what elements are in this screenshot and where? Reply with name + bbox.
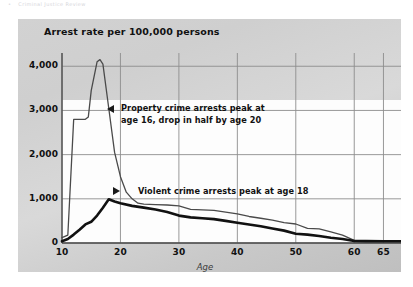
annotation-property-peak: Property crime arrests peak at age 16, d…	[121, 103, 265, 126]
series-line	[62, 199, 401, 241]
annotation-property-line1: Property crime arrests peak at	[121, 103, 265, 115]
axis-lines	[62, 53, 401, 243]
page-header-fragment: •Criminal Justice Review	[8, 1, 86, 7]
chart-panel: Arrest rate per 100,000 persons 01,0002,…	[18, 19, 401, 272]
annotation-violent-line1: Violent crime arrests peak at age 18	[138, 186, 308, 198]
header-bullet-icon: •	[8, 1, 11, 7]
header-fragment-text: Criminal Justice Review	[18, 1, 85, 7]
series-line	[62, 60, 401, 241]
chart-plot-area	[18, 19, 401, 272]
annotation-property-line2: age 16, drop in half by age 20	[121, 115, 265, 127]
series-lines	[62, 60, 401, 242]
gridlines	[62, 53, 401, 243]
triangle-left-icon	[107, 105, 114, 113]
triangle-right-icon	[113, 187, 120, 195]
x-axis-title: Age	[197, 262, 213, 272]
annotation-violent-peak: Violent crime arrests peak at age 18	[138, 186, 308, 198]
